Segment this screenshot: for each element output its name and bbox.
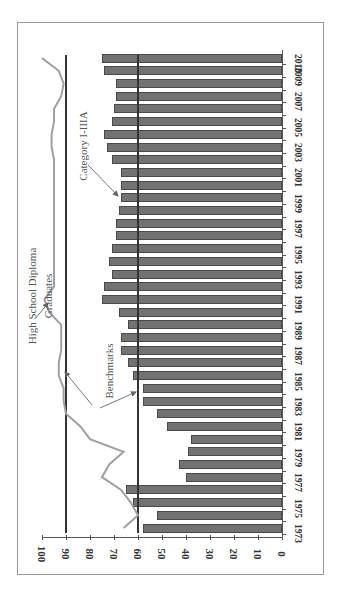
annotation-hsdg-line2: Graduates [42,236,54,356]
annotation-hsdg-line1: High School Diploma [26,236,38,356]
annotation-benchmarks: Benchmarks [103,326,115,416]
arrow-benchmark-90-icon [65,372,92,405]
hsdg-line [42,58,138,528]
annotation-category-i-iiia: Category I-IIIA [77,101,89,191]
arrow-category-icon [88,165,118,196]
